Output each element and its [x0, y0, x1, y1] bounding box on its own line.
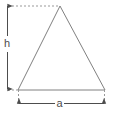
base-label: a [56, 97, 63, 109]
diagram-svg: h a [0, 0, 113, 124]
triangle-outline [18, 6, 105, 90]
height-label: h [4, 37, 10, 49]
triangle-dimension-figure: h a [0, 0, 113, 124]
